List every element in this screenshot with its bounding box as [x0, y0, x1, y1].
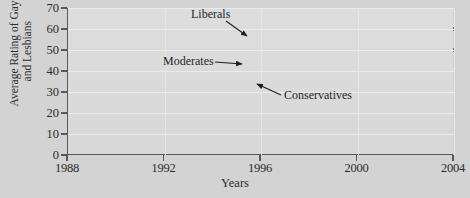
y-tick-label-0: 0: [0, 149, 59, 162]
x-tick-label-1988: 1988: [55, 162, 79, 175]
chart-figure: Average Rating of Gaysand Lesbians 01020…: [0, 0, 470, 198]
y-tick-label-20: 20: [0, 107, 59, 120]
gridline-vertical: [165, 8, 166, 155]
series-label-conservatives: Conservatives: [284, 89, 352, 101]
x-tick-label-1992: 1992: [151, 162, 175, 175]
x-tick-label-1996: 1996: [248, 162, 272, 175]
x-tick-label-2000: 2000: [344, 162, 368, 175]
x-axis-title: Years: [0, 176, 470, 191]
gridline-vertical: [358, 8, 359, 155]
gridline-vertical: [261, 8, 262, 155]
y-axis-title: Average Rating of Gaysand Lesbians: [8, 0, 34, 116]
y-tick-label-10: 10: [0, 128, 59, 141]
y-tick-label-40: 40: [0, 65, 59, 78]
y-tick-label-30: 30: [0, 86, 59, 99]
y-tick-label-70: 70: [0, 2, 59, 15]
series-label-moderates: Moderates: [163, 55, 214, 67]
y-tick-label-60: 60: [0, 23, 59, 36]
series-label-liberals: Liberals: [191, 8, 230, 20]
y-tick-label-50: 50: [0, 44, 59, 57]
x-tick-label-2004: 2004: [441, 162, 465, 175]
gridline-vertical: [454, 8, 455, 155]
plot-area: [67, 8, 453, 155]
